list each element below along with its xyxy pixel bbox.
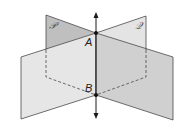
point-a-label: A xyxy=(84,36,92,48)
point-b-label: B xyxy=(85,82,92,94)
diagram-canvas: A B 𝒫 𝒬 xyxy=(0,0,187,139)
arrow-down-icon xyxy=(94,113,99,119)
arrow-up-icon xyxy=(94,12,99,18)
front-plane-right xyxy=(96,33,173,120)
point-b xyxy=(94,93,98,97)
point-a xyxy=(94,31,98,35)
intersecting-planes-figure: A B 𝒫 𝒬 xyxy=(0,0,187,139)
